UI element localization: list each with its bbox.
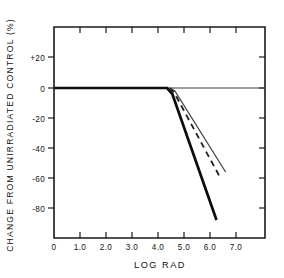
x-axis-title: LOG RAD — [134, 260, 186, 270]
chart-figure: +20 0 -20 -40 -60 -80 0 1.0 2.0 3.0 4.0 … — [0, 0, 284, 278]
top-axis-ticks — [80, 27, 236, 33]
x-tick-label: 7.0 — [230, 243, 242, 252]
y-axis-title: CHANGE FROM UNIRRADIATED CONTROL (%) — [5, 18, 15, 252]
axis-frame — [54, 27, 265, 238]
x-tick-label: 6.0 — [204, 243, 216, 252]
y-tick-label: -20 — [32, 115, 45, 124]
x-tick-labels: 0 1.0 2.0 3.0 4.0 5.0 6.0 7.0 — [52, 243, 243, 252]
intermediate-response-curve — [170, 88, 221, 178]
left-axis-ticks — [48, 57, 54, 208]
y-tick-label: -60 — [32, 175, 45, 184]
x-tick-label: 5.0 — [178, 243, 190, 252]
chart-plot-area: +20 0 -20 -40 -60 -80 0 1.0 2.0 3.0 4.0 … — [0, 0, 284, 278]
x-tick-label: 0 — [52, 243, 57, 252]
y-tick-labels: +20 0 -20 -40 -60 -80 — [30, 54, 45, 214]
x-tick-label: 1.0 — [74, 243, 86, 252]
x-tick-label: 4.0 — [152, 243, 164, 252]
steep-response-curve — [54, 88, 217, 220]
right-axis-ticks — [259, 57, 265, 208]
x-tick-label: 2.0 — [100, 243, 112, 252]
data-curves — [54, 88, 226, 220]
y-tick-label: +20 — [30, 54, 45, 63]
y-tick-label: -40 — [32, 145, 45, 154]
y-tick-label: 0 — [40, 85, 45, 94]
x-tick-label: 3.0 — [126, 243, 138, 252]
bottom-axis-ticks — [80, 232, 236, 238]
y-tick-label: -80 — [32, 205, 45, 214]
